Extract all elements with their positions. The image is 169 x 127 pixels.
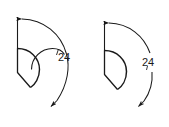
left-dimension-arc-upper [22, 19, 67, 54]
right-dimension-arrow-tail [139, 101, 145, 107]
left-dimension-arrow-tail [51, 101, 57, 107]
technical-drawing-svg: 24 24 [0, 0, 169, 127]
left-sector-straight-edges [18, 49, 31, 88]
left-dimension-value: 24 [58, 51, 70, 63]
right-sector-straight-edges [105, 51, 118, 90]
right-sector-outer-arc [105, 51, 127, 90]
right-dimension-arc-lower [144, 72, 152, 101]
drawing-canvas: 24 24 [0, 0, 169, 127]
right-dimension-value: 24 [142, 56, 154, 68]
right-dimension-arc-upper [109, 23, 150, 53]
left-figure: 24 [18, 17, 71, 107]
left-sector-outer-arc [18, 49, 40, 88]
right-figure: 24 [105, 21, 155, 107]
